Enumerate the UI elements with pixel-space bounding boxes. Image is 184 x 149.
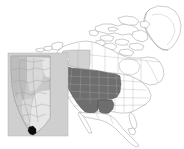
map-canvas: [0, 0, 184, 149]
inset-map-panel: [8, 53, 68, 136]
map-figure: North America distribution map with Albe…: [0, 0, 184, 149]
greenland-landmass: [144, 6, 181, 50]
